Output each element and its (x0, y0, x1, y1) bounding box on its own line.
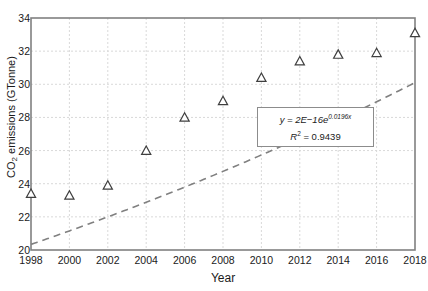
data-point-marker (334, 50, 343, 58)
r-squared: R2 = 0.9439 (290, 127, 340, 144)
data-point-marker (295, 56, 304, 64)
equation-text: y = 2E−16e (280, 114, 329, 125)
data-point-marker (26, 189, 35, 197)
trendline-equation: y = 2E−16e0.0196x (280, 110, 352, 127)
data-point-marker (372, 48, 381, 56)
data-point-marker (65, 191, 74, 199)
equation-exponent: 0.0196x (328, 113, 351, 120)
r-squared-value: = 0.9439 (303, 131, 340, 142)
data-point-marker (218, 96, 227, 104)
x-axis-title: Year (31, 271, 415, 285)
chart-container: CO2 emissions (GTonne) 2022242628303234 … (0, 0, 428, 291)
equation-annotation-box: y = 2E−16e0.0196x R2 = 0.9439 (257, 107, 374, 147)
data-point-marker (257, 73, 266, 81)
data-point-marker (142, 146, 151, 154)
data-point-marker (103, 181, 112, 189)
r-squared-superscript: 2 (297, 130, 301, 137)
data-point-marker (410, 28, 419, 36)
